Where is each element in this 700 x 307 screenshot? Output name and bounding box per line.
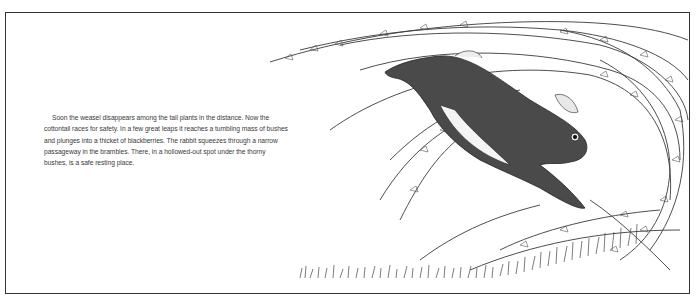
rabbit-bramble-illustration bbox=[255, 12, 690, 294]
grass bbox=[300, 224, 637, 278]
story-paragraph: Soon the weasel disappears among the tal… bbox=[44, 112, 289, 168]
story-text-block: Soon the weasel disappears among the tal… bbox=[44, 112, 289, 168]
rabbit bbox=[385, 51, 587, 208]
